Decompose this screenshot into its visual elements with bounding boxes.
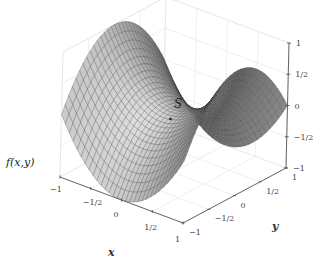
y-tick-label: −1 [189,228,201,237]
z-tick-label: 0 [295,102,300,111]
x-tick-label: −1/2 [83,198,103,207]
x-tick-label: 1 [175,235,180,244]
saddle-point-label: S [174,97,182,111]
y-axis-title: y [271,220,280,233]
saddle-point-marker [169,118,172,121]
z-tick-label: 1 [296,39,301,48]
z-tick-label: −1 [293,164,305,173]
z-tick-label: 1/2 [295,70,308,79]
x-tick-label: −1 [50,185,62,194]
x-tick-label: 1/2 [144,223,157,232]
y-tick-label: 1/2 [266,187,279,196]
saddle-surface [62,22,288,203]
y-tick-label: −1/2 [215,214,235,223]
x-axis-title: x [107,246,115,259]
x-tick-label: 0 [114,210,119,219]
z-tick-label: −1/2 [294,133,314,142]
z-axis-title: f(x,y) [5,156,35,169]
saddle-surface-plot: −1−1/201/21−1−1/201/21−1−1/201/21 f(x,y)… [0,0,319,274]
y-tick-label: 0 [241,201,246,210]
y-tick-label: 1 [292,173,297,182]
